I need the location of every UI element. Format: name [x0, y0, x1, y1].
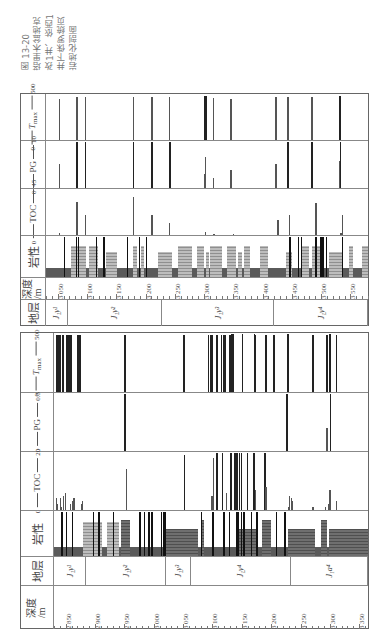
tmax-bar	[255, 335, 257, 392]
track-lithology: 岩性	[21, 235, 368, 277]
pg-bar	[205, 157, 206, 188]
depth-label: 3 000	[153, 614, 161, 629]
coal-seam	[103, 237, 105, 277]
sandstone-block	[302, 246, 310, 277]
coal-seam	[64, 237, 66, 277]
depth-label: 3 250	[300, 614, 308, 629]
tmax-bar	[312, 335, 314, 392]
mudstone-block	[121, 520, 130, 556]
coal-seam	[113, 512, 115, 556]
toc-plot	[54, 452, 368, 510]
coal-seam	[241, 512, 243, 556]
toc-bar	[247, 453, 249, 510]
toc-bar	[236, 453, 238, 510]
depth-tick	[119, 626, 120, 629]
tmax-bar	[133, 97, 134, 140]
tmax-bar	[124, 335, 126, 392]
depth-tick	[113, 626, 114, 629]
coal-seam	[289, 237, 291, 277]
depth-tick	[136, 626, 137, 629]
depth-tick	[295, 626, 296, 629]
pg-bar	[275, 164, 276, 188]
toc-bar	[65, 493, 66, 510]
sandstone-block	[206, 252, 210, 277]
toc-bar	[73, 498, 74, 510]
tmax-bar	[59, 99, 60, 140]
stratum-interval: J₁a⁴	[291, 557, 368, 585]
coal-seam	[276, 512, 278, 556]
tmax-bar	[221, 335, 223, 392]
track-pg: 0PG0.5	[21, 392, 368, 451]
coal-seam	[251, 512, 253, 556]
tmax-bar	[273, 335, 275, 392]
sandstone-block	[349, 246, 353, 277]
coal-seam	[243, 512, 245, 556]
track-tmax: 0Tmax500	[21, 333, 368, 392]
stratum-label: J₁y¹	[65, 565, 74, 577]
stratum-interval: J₁y¹	[46, 300, 68, 326]
coal-seam	[127, 237, 129, 277]
tmax-bar	[311, 97, 312, 140]
track-header-stratum: 地层	[21, 300, 46, 326]
depth-tick	[177, 626, 178, 629]
tmax-bar	[287, 97, 288, 140]
stratum-interval: J₁y³	[166, 557, 191, 585]
depth-label: 2 950	[123, 614, 131, 629]
toc-bar	[76, 202, 77, 235]
track-depth: 深度/m 3 0503 1003 1503 2003 2503 3003 350…	[21, 277, 368, 299]
toc-plot	[46, 189, 368, 235]
toc-bar	[277, 220, 278, 235]
depth-label: 3 300	[329, 614, 337, 629]
pg-bar	[326, 428, 327, 451]
track-lithology: 岩性	[21, 510, 368, 556]
depth-tick	[368, 296, 369, 299]
depth-tick	[342, 626, 343, 629]
mudstone-block	[166, 529, 198, 556]
toc-bar	[292, 501, 293, 510]
tmax-bar	[70, 335, 72, 392]
pg-plot	[54, 393, 368, 451]
track-header-toc: 0TOC20	[21, 452, 54, 510]
coal-seam	[315, 237, 317, 277]
toc-bar	[126, 469, 127, 510]
coal-seam	[148, 512, 150, 556]
caption-line: 井下侏罗统页	[58, 16, 67, 70]
toc-bar	[222, 453, 224, 510]
tmax-bar	[326, 335, 328, 392]
tmax-bar	[211, 335, 213, 392]
pg-bar	[213, 178, 214, 188]
coal-seam	[98, 512, 100, 556]
depth-tick	[60, 626, 61, 629]
coal-seam	[342, 237, 344, 277]
tmax-bar	[79, 335, 81, 392]
depth-label: 3 200	[270, 614, 278, 629]
track-toc: 0TOC20	[21, 451, 368, 510]
sandstone-block	[362, 246, 368, 277]
depth-tick	[259, 626, 260, 629]
stratum-interval: J₁y³	[162, 300, 274, 326]
profile-panel-top: 0Tmax500 0PG10 0TOC45 岩性 深度/m 3 0503 100…	[20, 93, 369, 326]
caption-line: 塔里木盆地克	[34, 16, 43, 70]
coal-seam	[151, 512, 153, 556]
stratum-interval: J₁y²	[86, 557, 166, 585]
depth-tick	[265, 626, 266, 629]
pg-bar	[85, 142, 87, 188]
depth-label: 3 150	[241, 614, 249, 629]
coal-seam	[78, 237, 80, 277]
stratum-label: J₁y¹	[52, 307, 61, 319]
sandstone-block	[178, 246, 192, 277]
stratum-label: J₁y⁴	[236, 565, 245, 578]
sandstone-block	[238, 252, 242, 277]
depth-tick	[166, 626, 167, 629]
tmax-bar	[183, 335, 185, 392]
track-tmax: 0Tmax500	[21, 94, 368, 140]
depth-tick	[324, 626, 325, 629]
track-toc: 0TOC45	[21, 188, 368, 235]
toc-bar	[230, 453, 232, 510]
depth-label: 3 100	[86, 284, 94, 299]
depth-label: 3 150	[115, 284, 123, 299]
tmax-bar	[230, 99, 231, 140]
coal-seam	[139, 512, 141, 556]
track-pg: 0PG10	[21, 140, 368, 188]
tmax-bar	[275, 97, 276, 140]
